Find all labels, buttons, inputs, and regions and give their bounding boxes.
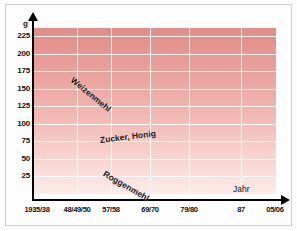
y-axis-tick-label: 150 bbox=[2, 85, 30, 93]
x-axis-tick-label: 69/70 bbox=[141, 206, 158, 214]
x-axis-tick-label: 57/58 bbox=[102, 206, 119, 214]
gridline-vertical bbox=[150, 28, 151, 194]
x-axis-tick-label: 48/49/50 bbox=[64, 206, 91, 214]
y-axis-tick-label: 25 bbox=[2, 172, 30, 180]
y-axis-line bbox=[32, 20, 34, 201]
gridline-vertical bbox=[111, 28, 112, 194]
y-axis-tick-label: 100 bbox=[2, 120, 30, 128]
gridline-horizontal bbox=[33, 54, 276, 55]
gridline-horizontal bbox=[33, 141, 276, 142]
y-axis-tick-labels: g 225200175150125100755025 bbox=[0, 0, 30, 231]
gridline-vertical bbox=[189, 28, 190, 194]
y-axis-unit-label: g bbox=[0, 20, 28, 28]
chart-figure: g 225200175150125100755025 1935/3848/49/… bbox=[0, 0, 297, 231]
y-axis-tick-label: 225 bbox=[2, 32, 30, 40]
x-axis-tick-label: 79/80 bbox=[180, 206, 197, 214]
gridline-horizontal bbox=[33, 36, 276, 37]
x-axis-arrow-icon bbox=[281, 195, 290, 205]
x-axis-tick-label: 05/06 bbox=[266, 206, 283, 214]
gridline-vertical bbox=[241, 28, 242, 194]
y-axis-tick-label: 175 bbox=[2, 67, 30, 75]
plot-area bbox=[33, 28, 276, 194]
gridline-horizontal bbox=[33, 124, 276, 125]
y-axis-tick-label: 75 bbox=[2, 137, 30, 145]
gridline-horizontal bbox=[33, 159, 276, 160]
plot-background bbox=[33, 28, 276, 194]
gridline-horizontal bbox=[33, 89, 276, 90]
y-axis-tick-label: 200 bbox=[2, 50, 30, 58]
gridline-horizontal bbox=[33, 106, 276, 107]
y-axis-tick-label: 125 bbox=[2, 102, 30, 110]
gridline-vertical bbox=[276, 28, 277, 194]
x-axis-tick-label: 87 bbox=[237, 206, 245, 214]
y-axis-tick-label: 50 bbox=[2, 155, 30, 163]
x-axis-tick-label: 1935/38 bbox=[24, 206, 49, 214]
x-axis-line bbox=[32, 199, 282, 201]
gridline-vertical bbox=[77, 28, 78, 194]
gridline-horizontal bbox=[33, 71, 276, 72]
gridline-horizontal bbox=[33, 176, 276, 177]
x-axis-title: Jahr bbox=[233, 184, 250, 194]
